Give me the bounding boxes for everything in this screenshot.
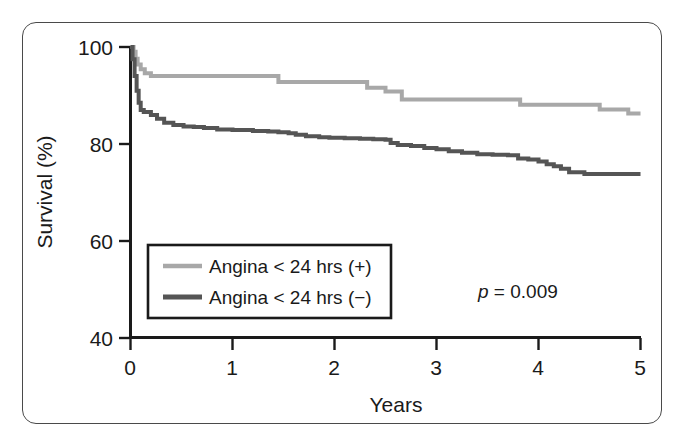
- x-tick-label-3: 3: [430, 356, 442, 379]
- x-axis-tick-labels: 0 1 2 3 4 5: [124, 356, 646, 379]
- p-value-annotation: p = 0.009: [477, 281, 558, 302]
- x-axis-ticks: [131, 338, 641, 350]
- legend-label-angina-positive: Angina < 24 hrs (+): [209, 256, 372, 277]
- y-tick-label-80: 80: [90, 133, 113, 156]
- survival-chart: 100 80 60 40 0 1 2 3 4 5 Survival (%) Ye…: [0, 0, 685, 441]
- x-axis-title: Years: [370, 393, 423, 416]
- series-line-angina-positive: [131, 47, 641, 113]
- y-tick-label-100: 100: [78, 36, 113, 59]
- legend-label-angina-negative: Angina < 24 hrs (−): [209, 287, 372, 308]
- x-tick-label-5: 5: [634, 356, 646, 379]
- data-series-group: [131, 47, 641, 174]
- p-value-symbol: p: [477, 281, 489, 302]
- x-tick-label-2: 2: [328, 356, 340, 379]
- y-tick-label-40: 40: [90, 327, 113, 350]
- legend: Angina < 24 hrs (+) Angina < 24 hrs (−): [148, 245, 391, 318]
- y-tick-label-60: 60: [90, 230, 113, 253]
- y-axis-tick-labels: 100 80 60 40: [78, 36, 113, 350]
- y-axis-title: Survival (%): [33, 135, 56, 248]
- p-value-body: = 0.009: [489, 281, 558, 302]
- series-line-angina-negative: [131, 47, 641, 174]
- x-tick-label-1: 1: [226, 356, 238, 379]
- x-tick-label-4: 4: [532, 356, 544, 379]
- figure-container: 100 80 60 40 0 1 2 3 4 5 Survival (%) Ye…: [0, 0, 685, 441]
- x-tick-label-0: 0: [124, 356, 136, 379]
- y-axis-ticks: [119, 47, 130, 338]
